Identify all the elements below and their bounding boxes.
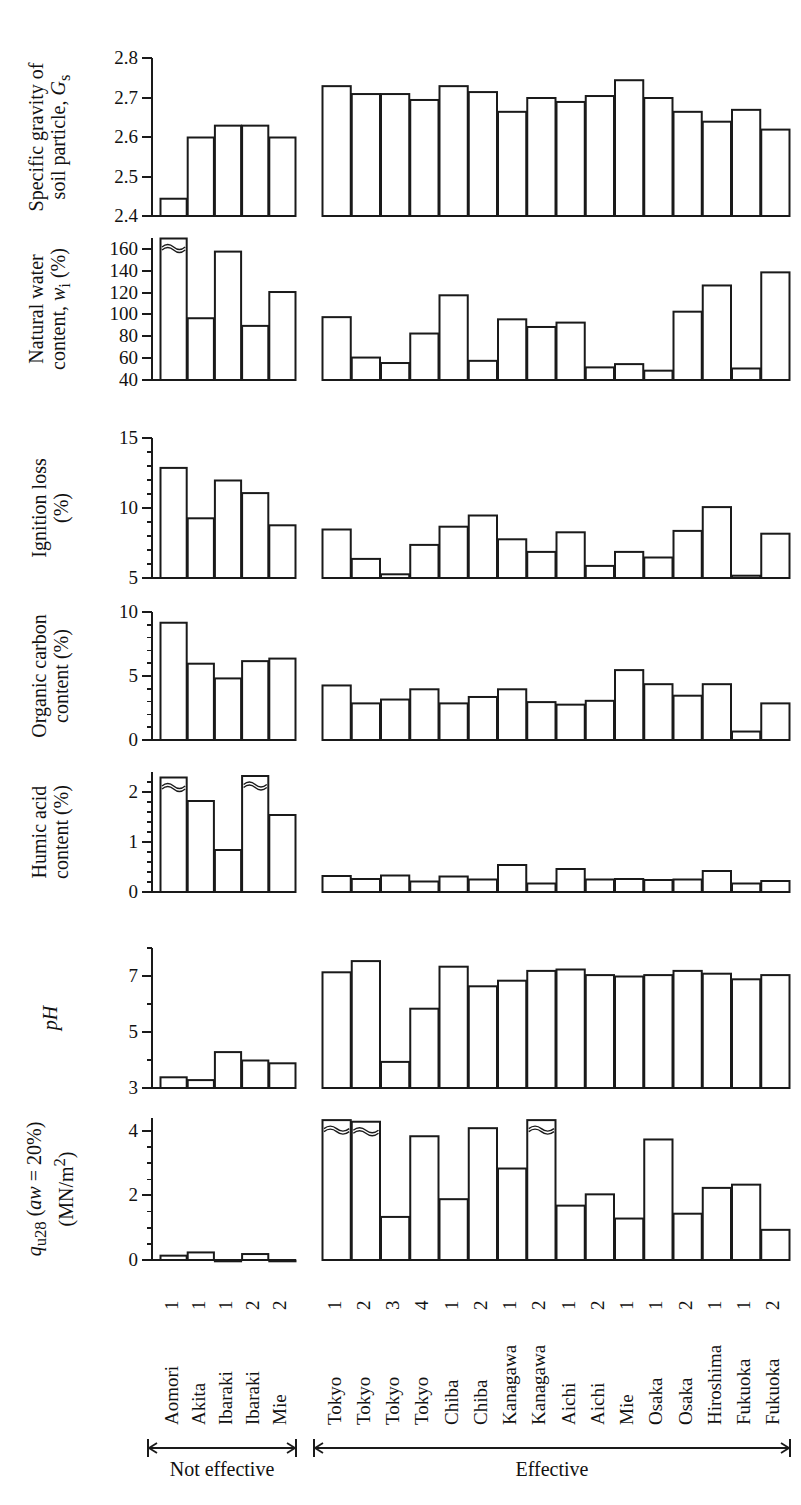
y-axis-title-text: Humic acidcontent (%) <box>28 785 73 879</box>
bar-not-effective-3 <box>242 1254 268 1260</box>
x-tick-number-effective-10: 1 <box>617 1301 636 1311</box>
bar-effective-15 <box>761 534 789 578</box>
bar-effective-4 <box>440 295 468 380</box>
bar-effective-7-truncated <box>527 1120 555 1260</box>
bar-effective-0 <box>323 876 351 892</box>
figure-root: Specific gravity ofsoil particle, Gs2.42… <box>0 0 801 1505</box>
plot-area-specific-gravity <box>100 58 769 222</box>
bar-effective-4 <box>440 877 468 893</box>
bar-effective-5 <box>469 361 497 380</box>
x-tick-label-effective-2: Tokyo <box>383 1377 402 1425</box>
x-tick-label-effective-9: Aichi <box>588 1383 607 1425</box>
bar-effective-9 <box>586 975 614 1088</box>
bar-not-effective-4 <box>269 815 295 892</box>
y-tick-label: 5 <box>68 1022 138 1041</box>
bar-effective-14 <box>732 110 760 216</box>
panel-qu28: qu28 (aw = 20%)(MN/m2)024 <box>0 1118 801 1260</box>
x-tick-number-effective-3: 4 <box>412 1301 431 1311</box>
bar-not-effective-4 <box>269 525 295 578</box>
y-axis-title-text: pH <box>39 1006 61 1030</box>
bar-effective-13 <box>703 1188 731 1260</box>
bar-effective-3 <box>410 334 438 380</box>
bar-effective-12 <box>674 112 702 216</box>
bar-effective-6 <box>498 689 526 740</box>
y-tick-label: 80 <box>68 326 138 345</box>
bar-not-effective-2 <box>215 850 241 892</box>
bar-not-effective-3-truncated <box>242 776 268 892</box>
bar-effective-7 <box>527 702 555 740</box>
x-tick-number-effective-12: 2 <box>676 1301 695 1311</box>
y-tick-label: 2 <box>68 782 138 801</box>
bar-effective-5 <box>469 516 497 579</box>
bar-effective-8 <box>557 705 585 740</box>
bar-effective-0 <box>323 685 351 740</box>
plot-area-ignition-loss <box>100 438 769 584</box>
bar-effective-7 <box>527 552 555 578</box>
bar-effective-6 <box>498 112 526 216</box>
bar-effective-15 <box>761 881 789 892</box>
bar-not-effective-0 <box>161 199 187 216</box>
x-tick-number-effective-15: 2 <box>763 1301 782 1311</box>
plot-area-ph <box>100 948 769 1094</box>
y-tick-label: 0 <box>68 730 138 749</box>
x-tick-label-not-effective-1: Akita <box>189 1383 208 1425</box>
bar-effective-10 <box>615 80 643 216</box>
bar-effective-8 <box>557 1206 585 1260</box>
bar-effective-2 <box>381 1217 409 1260</box>
y-tick-label: 1 <box>68 832 138 851</box>
bar-effective-2 <box>381 876 409 893</box>
x-tick-number-not-effective-3: 2 <box>243 1301 262 1311</box>
bar-effective-2 <box>381 574 409 578</box>
x-tick-number-effective-8: 1 <box>559 1301 578 1311</box>
bar-effective-9 <box>586 96 614 216</box>
x-tick-label-effective-11: Osaka <box>646 1378 665 1425</box>
bar-effective-13 <box>703 871 731 892</box>
bar-effective-5 <box>469 880 497 893</box>
bar-effective-2 <box>381 363 409 380</box>
bar-not-effective-1 <box>188 518 214 578</box>
panel-specific-gravity: Specific gravity ofsoil particle, Gs2.42… <box>0 58 801 216</box>
bar-not-effective-2 <box>215 252 241 380</box>
y-tick-label: 5 <box>68 666 138 685</box>
x-tick-number-effective-4: 1 <box>442 1301 461 1311</box>
bar-effective-9 <box>586 566 614 578</box>
x-tick-number-not-effective-2: 1 <box>216 1301 235 1311</box>
y-tick-label: 120 <box>68 283 138 302</box>
x-tick-number-effective-9: 2 <box>588 1301 607 1311</box>
x-tick-label-effective-14: Fukuoka <box>734 1359 753 1426</box>
bar-effective-11 <box>644 880 672 892</box>
x-tick-number-effective-1: 2 <box>354 1301 373 1311</box>
bar-effective-11 <box>644 975 672 1088</box>
bar-not-effective-3 <box>242 126 268 216</box>
plot-area-humic-acid-content <box>100 772 769 898</box>
y-tick-label: 3 <box>68 1078 138 1097</box>
bar-effective-1 <box>352 559 380 578</box>
bar-effective-0 <box>323 86 351 216</box>
bar-effective-10 <box>615 879 643 892</box>
bar-not-effective-0 <box>161 623 187 740</box>
bar-effective-6 <box>498 981 526 1088</box>
bar-effective-1 <box>352 879 380 892</box>
bar-effective-0 <box>323 317 351 380</box>
x-tick-label-effective-0: Tokyo <box>325 1377 344 1425</box>
x-tick-number-effective-7: 2 <box>529 1301 548 1311</box>
bar-effective-10 <box>615 977 643 1089</box>
y-tick-label: 2.4 <box>68 206 138 225</box>
y-tick-label: 2.6 <box>68 127 138 146</box>
bar-effective-11 <box>644 371 672 380</box>
bar-effective-5 <box>469 92 497 216</box>
bar-not-effective-3 <box>242 493 268 578</box>
bar-effective-3 <box>410 545 438 578</box>
plot-area-organic-carbon-content <box>100 612 769 746</box>
bar-not-effective-4 <box>269 292 295 380</box>
bar-not-effective-1 <box>188 1252 214 1260</box>
bar-effective-5 <box>469 1128 497 1260</box>
panel-ignition-loss: Ignition loss(%)51015 <box>0 438 801 578</box>
bar-effective-10 <box>615 552 643 578</box>
panel-natural-water-content: Natural watercontent, wi (%)406080100120… <box>0 238 801 380</box>
bar-effective-8 <box>557 869 585 892</box>
y-tick-label: 5 <box>68 568 138 587</box>
bar-effective-8 <box>557 102 585 216</box>
bar-effective-7 <box>527 98 555 216</box>
bar-effective-1 <box>352 961 380 1088</box>
